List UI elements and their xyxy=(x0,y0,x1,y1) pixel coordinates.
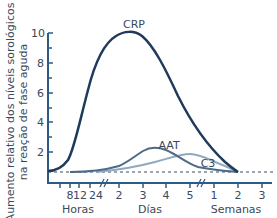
y-tick-2: 2 xyxy=(37,146,44,159)
x-tick-3d: 3 xyxy=(140,189,147,202)
x-tick-2w: 2 xyxy=(235,189,242,202)
label-c3: C3 xyxy=(201,157,216,170)
y-tick-10: 10 xyxy=(31,27,45,40)
acute-phase-chart: Aumento relativo dos níveis sorológicos … xyxy=(0,0,277,218)
x-segment-dias: Días xyxy=(138,203,162,216)
x-segment-semanas: Semanas xyxy=(211,203,262,216)
x-tick-3w: 3 xyxy=(259,189,266,202)
y-tick-8: 8 xyxy=(37,57,44,70)
x-tick-24h: 24 xyxy=(89,189,103,202)
x-tick-1w: 1 xyxy=(211,189,218,202)
label-aat: AAT xyxy=(158,139,180,152)
y-tick-4: 4 xyxy=(37,116,44,129)
label-crp: CRP xyxy=(123,18,145,31)
x-segment-horas: Horas xyxy=(62,203,94,216)
y-tick-6: 6 xyxy=(37,87,44,100)
x-tick-4d: 4 xyxy=(163,189,170,202)
x-tick-2d: 2 xyxy=(116,189,123,202)
x-tick-5d: 5 xyxy=(187,189,194,202)
x-tick-12h: 12 xyxy=(73,189,87,202)
y-axis-title-line1: Aumento relativo dos níveis sorológicos xyxy=(4,2,17,218)
y-axis-title-line2: na reação de fase aguda xyxy=(17,44,30,180)
